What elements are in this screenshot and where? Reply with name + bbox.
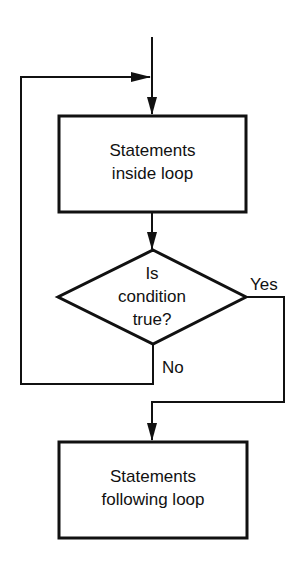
condition-line-1: Is xyxy=(145,264,158,283)
loop-body-line-2: inside loop xyxy=(112,164,193,183)
after-loop-line-2: following loop xyxy=(101,490,204,509)
loop-body-node: Statements inside loop xyxy=(59,116,246,212)
after-loop-line-1: Statements xyxy=(110,467,196,486)
flowchart-canvas: Statements inside loop Is condition true… xyxy=(0,0,302,566)
loop-body-line-1: Statements xyxy=(110,141,196,160)
condition-line-2: condition xyxy=(118,287,186,306)
after-loop-node: Statements following loop xyxy=(59,442,247,538)
yes-label: Yes xyxy=(250,275,278,294)
condition-line-3: true? xyxy=(133,310,172,329)
condition-node: Is condition true? xyxy=(58,250,246,344)
no-label: No xyxy=(162,358,184,377)
body-to-condition-arrow xyxy=(147,212,157,250)
